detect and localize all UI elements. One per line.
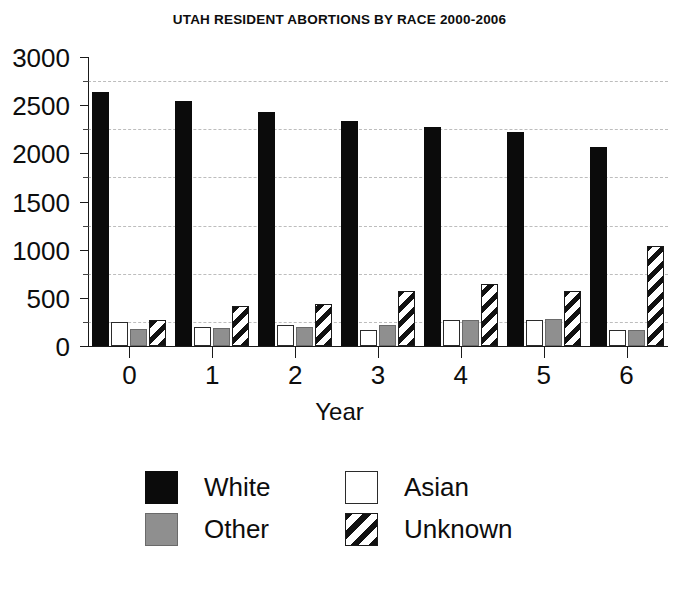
y-tick-major: 3000 (80, 57, 89, 58)
x-tick-label: 5 (536, 361, 550, 389)
bar-other-0 (130, 329, 147, 346)
legend-row: WhiteAsian (145, 466, 545, 508)
x-tick (295, 347, 296, 358)
y-tick-major: 1000 (80, 250, 89, 251)
y-axis: 050010001500200025003000 (88, 57, 89, 347)
bar-unknown-3 (398, 291, 415, 346)
y-tick-label: 1500 (12, 190, 70, 216)
plot-area (88, 57, 668, 346)
bar-white-6 (590, 147, 607, 346)
bar-asian-1 (194, 327, 211, 346)
x-tick (129, 347, 130, 358)
bar-unknown-0 (149, 320, 166, 346)
x-axis: 0123456 (88, 346, 668, 347)
y-tick-minor (83, 129, 89, 130)
y-tick-major: 1500 (80, 202, 89, 203)
bar-white-1 (175, 101, 192, 346)
legend-label: White (204, 473, 270, 501)
y-tick-label: 3000 (12, 45, 70, 71)
y-tick-minor (83, 274, 89, 275)
x-tick-label: 4 (454, 361, 468, 389)
legend-item-other: Other (145, 513, 345, 546)
bar-white-0 (92, 92, 109, 346)
bar-unknown-1 (232, 306, 249, 346)
bar-other-2 (296, 327, 313, 346)
x-tick (627, 347, 628, 358)
grid-line (88, 81, 668, 82)
bar-asian-2 (277, 325, 294, 346)
legend-item-asian: Asian (345, 471, 545, 504)
bar-asian-5 (526, 320, 543, 346)
legend-swatch-asian-icon (345, 471, 378, 504)
x-tick-label: 1 (205, 361, 219, 389)
y-tick-label: 500 (27, 286, 70, 312)
legend-swatch-unknown-icon (345, 513, 378, 546)
y-tick-minor (83, 322, 89, 323)
y-tick-label: 2000 (12, 141, 70, 167)
legend-swatch-other-icon (145, 513, 178, 546)
bar-unknown-2 (315, 304, 332, 346)
legend-item-white: White (145, 471, 345, 504)
x-tick (378, 347, 379, 358)
chart-legend: WhiteAsianOtherUnknown (145, 466, 545, 550)
bar-unknown-6 (647, 246, 664, 346)
bar-other-5 (545, 319, 562, 346)
x-tick (461, 347, 462, 358)
y-tick-major: 2000 (80, 153, 89, 154)
x-tick-label: 6 (619, 361, 633, 389)
y-tick-label: 2500 (12, 93, 70, 119)
legend-label: Unknown (404, 515, 512, 543)
x-tick-label: 0 (122, 361, 136, 389)
bar-unknown-5 (564, 291, 581, 346)
y-tick-label: 0 (56, 334, 70, 360)
bar-other-3 (379, 325, 396, 346)
bar-other-1 (213, 328, 230, 346)
y-tick-minor (83, 177, 89, 178)
y-tick-major: 500 (80, 298, 89, 299)
chart-title: UTAH RESIDENT ABORTIONS BY RACE 2000-200… (0, 12, 679, 27)
bar-asian-4 (443, 320, 460, 346)
legend-swatch-white-icon (145, 471, 178, 504)
bar-other-6 (628, 330, 645, 346)
legend-item-unknown: Unknown (345, 513, 545, 546)
y-tick-minor (83, 81, 89, 82)
x-tick-label: 3 (371, 361, 385, 389)
bar-white-3 (341, 121, 358, 346)
legend-label: Asian (404, 473, 469, 501)
bar-white-4 (424, 127, 441, 346)
bar-white-5 (507, 132, 524, 346)
x-tick (212, 347, 213, 358)
legend-row: OtherUnknown (145, 508, 545, 550)
x-axis-title: Year (0, 398, 679, 426)
bar-other-4 (462, 320, 479, 346)
bar-asian-6 (609, 330, 626, 346)
bar-unknown-4 (481, 284, 498, 346)
y-tick-major: 2500 (80, 105, 89, 106)
x-tick (544, 347, 545, 358)
y-tick-label: 1000 (12, 238, 70, 264)
y-tick-minor (83, 226, 89, 227)
chart-root: UTAH RESIDENT ABORTIONS BY RACE 2000-200… (0, 0, 679, 602)
bar-white-2 (258, 112, 275, 346)
bar-asian-3 (360, 330, 377, 346)
x-tick-label: 2 (288, 361, 302, 389)
legend-label: Other (204, 515, 269, 543)
bar-asian-0 (111, 322, 128, 346)
